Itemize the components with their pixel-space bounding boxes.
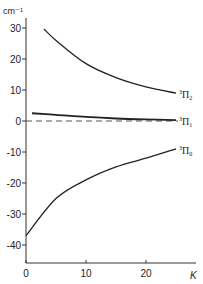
series-line-pi0 — [26, 149, 176, 236]
y-tick-label: 10 — [10, 85, 22, 96]
x-tick-label: 20 — [140, 268, 152, 279]
y-tick-label: 20 — [10, 54, 22, 65]
y-tick-label: 30 — [10, 23, 22, 34]
series-line-pi2 — [44, 29, 176, 93]
series-label-pi2: 3Π2 — [179, 89, 192, 101]
y-axis-unit-label: cm⁻¹ — [3, 6, 23, 16]
x-axis-label: K — [190, 270, 198, 281]
series-lines: 3Π23Π13Π0 — [26, 29, 192, 236]
y-tick-label: -20 — [7, 178, 22, 189]
y-tick-label: -30 — [7, 209, 22, 220]
x-tick-label: 0 — [23, 268, 29, 279]
y-ticks: 3020100-10-20-30-40 — [7, 23, 26, 251]
series-line-pi1 — [32, 113, 176, 120]
x-tick-label: 10 — [80, 268, 92, 279]
y-tick-label: 0 — [15, 116, 21, 127]
axes — [26, 18, 196, 263]
series-label-pi0: 3Π0 — [179, 145, 192, 157]
chart: 3020100-10-20-30-40 01020 3Π23Π13Π0 cm⁻¹… — [0, 0, 203, 284]
series-label-pi1: 3Π1 — [179, 116, 192, 128]
y-tick-label: -10 — [7, 147, 22, 158]
y-tick-label: -40 — [7, 240, 22, 251]
